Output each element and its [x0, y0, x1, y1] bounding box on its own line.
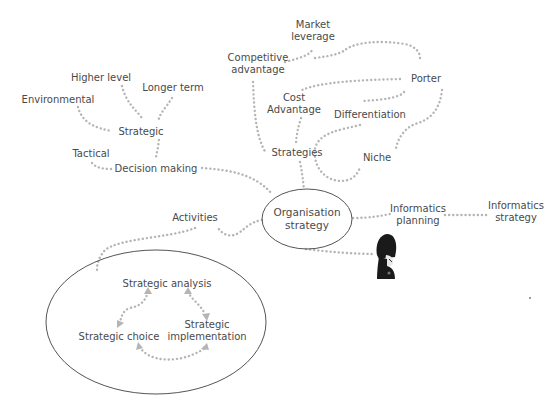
strategic-implementation-line1: Strategic	[167, 319, 246, 331]
node-environmental: Environmental	[22, 94, 95, 106]
central-label-line1: Organisation	[273, 206, 340, 219]
node-strategic-analysis: Strategic analysis	[123, 278, 212, 290]
informatics-strategy-line2: strategy	[488, 212, 544, 224]
informatics-strategy-line1: Informatics	[488, 200, 544, 212]
market-leverage-line2: leverage	[291, 31, 335, 43]
node-activities: Activities	[172, 212, 218, 224]
node-higher-level: Higher level	[71, 72, 131, 84]
node-informatics-planning: Informatics planning	[390, 203, 446, 227]
node-decision-making: Decision making	[115, 163, 198, 175]
node-organisation-strategy: Organisation strategy	[273, 206, 340, 232]
competitive-advantage-line2: advantage	[228, 64, 289, 76]
node-porter: Porter	[411, 73, 441, 85]
node-competitive-advantage: Competitive advantage	[228, 52, 289, 76]
competitive-advantage-line1: Competitive	[228, 52, 289, 64]
node-strategic-choice: Strategic choice	[79, 331, 160, 343]
node-strategic-implementation: Strategic implementation	[167, 319, 246, 343]
stray-dot	[529, 297, 531, 299]
node-strategic: Strategic	[118, 126, 163, 138]
central-label-line2: strategy	[273, 219, 340, 232]
node-differentiation: Differentiation	[334, 109, 406, 121]
informatics-planning-line1: Informatics	[390, 203, 446, 215]
node-informatics-strategy: Informatics strategy	[488, 200, 544, 224]
cost-advantage-line2: Advantage	[267, 104, 321, 116]
informatics-planning-line2: planning	[390, 215, 446, 227]
royal-guard-icon	[373, 233, 399, 279]
node-niche: Niche	[363, 152, 391, 164]
market-leverage-line1: Market	[291, 19, 335, 31]
node-cost-advantage: Cost Advantage	[267, 92, 321, 116]
node-market-leverage: Market leverage	[291, 19, 335, 43]
node-strategies: Strategies	[271, 147, 322, 159]
strategic-implementation-line2: implementation	[167, 331, 246, 343]
node-tactical: Tactical	[72, 148, 109, 160]
node-longer-term: Longer term	[142, 82, 203, 94]
cost-advantage-line1: Cost	[267, 92, 321, 104]
